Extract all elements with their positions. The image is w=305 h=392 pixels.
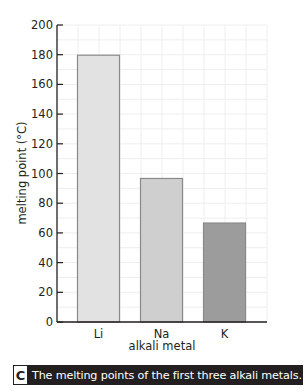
caption-text: The melting points of the first three al… <box>28 365 303 385</box>
bar-chart: 020406080100120140160180200 LiNaK alkali… <box>0 0 305 360</box>
y-tick-label: 160 <box>31 77 53 91</box>
x-axis-title: alkali metal <box>129 339 196 353</box>
bar-na <box>141 178 183 322</box>
y-tick-label: 0 <box>46 315 53 329</box>
caption-label: C <box>13 365 28 385</box>
y-tick-label: 20 <box>38 285 53 299</box>
x-tick-label: Li <box>94 327 104 341</box>
bar-li <box>78 55 120 322</box>
y-tick-label: 60 <box>38 226 53 240</box>
bar-k <box>204 223 246 322</box>
y-axis-ticks: 020406080100120140160180200 <box>31 18 63 329</box>
y-axis-title: melting point (°C) <box>15 121 29 224</box>
y-tick-label: 120 <box>31 137 53 151</box>
y-tick-label: 140 <box>31 107 53 121</box>
y-tick-label: 80 <box>38 196 53 210</box>
x-tick-label: K <box>221 327 229 341</box>
figure-caption: C The melting points of the first three … <box>13 365 303 385</box>
y-tick-label: 100 <box>31 167 53 181</box>
y-tick-label: 200 <box>31 18 53 32</box>
y-tick-label: 180 <box>31 48 53 62</box>
y-tick-label: 40 <box>38 256 53 270</box>
